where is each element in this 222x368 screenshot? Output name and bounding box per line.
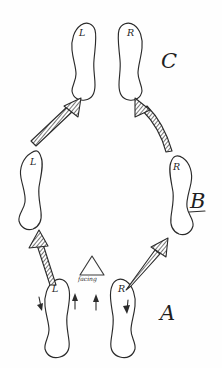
facing-marker-group: facing <box>77 256 104 283</box>
footwork-diagram: L R C L R B L R A facing <box>0 0 222 368</box>
motion-arrow-b-to-c-right-shaft <box>142 106 172 152</box>
facing-triangle-icon <box>80 256 104 275</box>
footprint-mid-left-label: L <box>29 156 36 167</box>
motion-arrow-b-to-c-right <box>135 98 172 152</box>
footprint-top-left-label: L <box>78 27 85 38</box>
footprint-top-right-label: R <box>126 27 134 38</box>
footprint-bottom-right-label: R <box>117 283 125 294</box>
pivot-arrow-inner-right <box>93 294 99 310</box>
pivot-arrow-inner-right-head <box>93 294 99 302</box>
motion-arrow-b-to-c-left <box>31 98 81 146</box>
facing-label: facing <box>77 275 97 283</box>
motion-arrow-a-to-b-left-shaft <box>36 241 56 285</box>
pivot-arrow-outer-left-head <box>37 303 43 311</box>
motion-arrow-b-to-c-left-shaft <box>31 106 73 146</box>
stage-label-b: B <box>189 189 205 213</box>
motion-arrow-a-to-b-right <box>126 238 168 290</box>
stage-label-c: C <box>161 49 177 73</box>
motion-arrow-a-to-b-left <box>29 230 56 285</box>
pivot-arrow-inner-left-head <box>72 293 78 301</box>
pivot-arrow-inner-left <box>72 293 78 309</box>
stage-label-a: A <box>158 301 175 325</box>
stage-b-group: L R B <box>19 151 206 235</box>
motion-arrow-a-to-b-left-head <box>29 230 48 248</box>
footprint-mid-right-label: R <box>172 161 180 172</box>
diagram-canvas: L R C L R B L R A facing <box>0 0 222 368</box>
stage-c-group: L R C <box>72 23 177 100</box>
pivot-arrow-outer-left <box>37 297 43 311</box>
motion-arrow-a-to-b-right-shaft <box>126 250 160 290</box>
stage-a-group: L R A <box>45 279 175 357</box>
